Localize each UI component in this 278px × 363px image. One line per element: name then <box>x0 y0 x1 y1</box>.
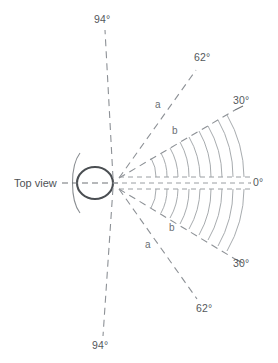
wavefront-arc <box>208 126 222 177</box>
angle-label-0: 0° <box>253 176 263 188</box>
wavefront-arc <box>151 189 156 208</box>
angle-label-94-up: 94° <box>94 13 110 25</box>
sector-label-b-upper: b <box>172 125 178 136</box>
ray-62-up <box>119 70 196 178</box>
angle-label-30-up: 30° <box>233 94 249 106</box>
wavefront-arc <box>227 189 244 251</box>
wavefront-arc <box>170 148 178 177</box>
angle-label-30-down: 30° <box>233 257 249 269</box>
wavefront-arcs-upper <box>151 115 244 177</box>
ray-94-up <box>105 30 113 178</box>
angle-label-62-up: 62° <box>194 51 210 63</box>
angle-label-62-down: 62° <box>196 302 212 314</box>
wavefront-arc <box>189 137 200 177</box>
wavefront-arc <box>180 142 189 177</box>
wavefront-arc <box>161 153 167 177</box>
wavefront-arc <box>189 189 200 229</box>
ray-0-group <box>113 177 250 189</box>
sector-labels-group: a b b a <box>145 99 178 250</box>
top-view-label-group: Top view <box>14 177 57 189</box>
wavefront-arc <box>218 120 233 177</box>
sector-label-a-upper: a <box>155 99 161 110</box>
wavefront-arc <box>151 158 156 177</box>
angle-label-94-down: 94° <box>92 339 108 351</box>
wavefront-arc <box>208 189 222 240</box>
wavefront-arc <box>180 189 189 224</box>
wavefront-arc <box>170 189 178 218</box>
leader-line-30-up <box>235 106 243 110</box>
wavefront-arc <box>161 189 167 213</box>
wavefront-arc <box>199 189 211 235</box>
sector-label-b-lower: b <box>169 222 175 233</box>
wavefront-arcs-lower <box>151 189 244 251</box>
wavefront-arc <box>199 131 211 177</box>
wavefront-arc <box>227 115 244 177</box>
sector-label-a-lower: a <box>145 239 151 250</box>
leader-lines-group <box>235 106 251 263</box>
ray-94-down <box>103 188 113 336</box>
dispersion-diagram-figure: Top view 94° 62° 30° 0° 30° 62° 94° a b … <box>0 0 278 363</box>
ray-62-down <box>119 189 197 299</box>
wavefront-arc <box>218 189 233 246</box>
page-title: Top view <box>14 177 57 189</box>
diagram-root: Top view 94° 62° 30° 0° 30° 62° 94° a b … <box>0 0 278 363</box>
angle-labels-group: 94° 62° 30° 0° 30° 62° 94° <box>92 13 263 351</box>
